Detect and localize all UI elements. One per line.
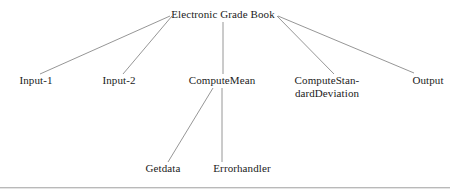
node-errorhandler[interactable]: Errorhandler [213,162,270,175]
node-compute-mean-text: ComputeMean [189,74,255,86]
node-input-2-text: Input-2 [102,74,135,86]
node-electronic-grade-book-text: Electronic Grade Book [171,8,275,20]
node-compute-standard-deviation-text: ComputeStan- [295,74,360,86]
node-compute-standard-deviation[interactable]: ComputeStan-dardDeviation [295,74,360,99]
node-input-2[interactable]: Input-2 [102,74,135,87]
node-input-1-text: Input-1 [19,74,52,86]
node-input-1[interactable]: Input-1 [19,74,52,87]
node-output[interactable]: Output [412,74,443,87]
edge-root-compute-standard-deviation [277,16,334,74]
edge-root-output [278,16,414,73]
node-compute-mean[interactable]: ComputeMean [189,74,255,87]
node-output-text: Output [412,74,443,86]
node-getdata-text: Getdata [146,162,181,174]
edge-compute-mean-getdata [168,88,213,162]
node-compute-standard-deviation-text-line2: dardDeviation [295,87,360,100]
node-electronic-grade-book[interactable]: Electronic Grade Book [171,8,275,21]
node-getdata[interactable]: Getdata [146,162,181,175]
edge-root-input-1 [40,16,170,74]
bottom-horizontal-rule-shadow [0,188,450,189]
structure-chart-diagram: Electronic Grade BookInput-1Input-2Compu… [0,0,450,193]
edge-root-input-2 [123,16,172,74]
node-errorhandler-text: Errorhandler [213,162,270,174]
